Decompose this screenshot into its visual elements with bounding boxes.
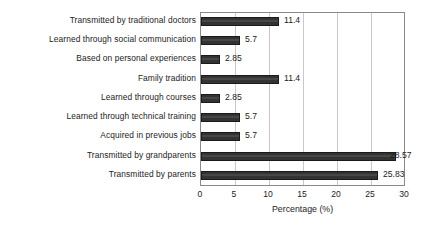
bar <box>201 171 378 180</box>
bar <box>201 17 279 26</box>
x-tick-label: 25 <box>365 188 375 200</box>
category-label: Family tradition <box>0 73 196 83</box>
x-tick-label: 30 <box>399 188 409 200</box>
category-axis-labels: Transmitted by traditional doctors Learn… <box>0 12 196 186</box>
category-label: Learned through technical training <box>0 111 196 121</box>
category-label: Based on personal experiences <box>0 53 196 63</box>
bar <box>201 94 220 103</box>
category-label: Transmitted by parents <box>0 169 196 179</box>
plot-area <box>200 12 405 186</box>
category-label: Learned through social communication <box>0 34 196 44</box>
bars <box>201 13 404 185</box>
x-axis-title: Percentage (%) <box>200 203 405 215</box>
bar <box>201 55 220 64</box>
category-label: Learned through courses <box>0 92 196 102</box>
category-label: Transmitted by traditional doctors <box>0 15 196 25</box>
bar <box>201 132 240 141</box>
x-tick-label: 20 <box>331 188 341 200</box>
x-tick-label: 15 <box>297 188 307 200</box>
bar-chart: Transmitted by traditional doctors Learn… <box>0 0 423 226</box>
x-tick-label: 10 <box>263 188 273 200</box>
x-tick-label: 5 <box>232 188 237 200</box>
bar <box>201 113 240 122</box>
x-tick-label: 0 <box>198 188 203 200</box>
category-label: Acquired in previous jobs <box>0 130 196 140</box>
bar <box>201 75 279 84</box>
bar <box>201 36 240 45</box>
x-axis-ticks: 0 5 10 15 20 25 30 <box>200 188 405 202</box>
bar <box>201 152 396 161</box>
category-label: Transmitted by grandparents <box>0 150 196 160</box>
